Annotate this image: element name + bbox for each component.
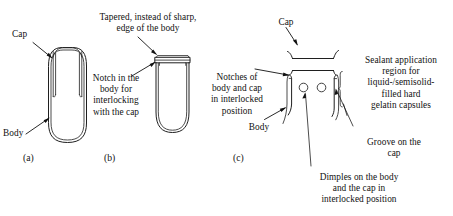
- panel-c-notches-label: Notches of body and cap in interlocked p…: [200, 72, 274, 117]
- panel-a-marker: (a): [23, 152, 34, 163]
- panel-a-body-label: Body: [3, 128, 49, 139]
- panel-b-marker: (b): [104, 152, 115, 163]
- dimple-circle-right: [317, 83, 326, 92]
- panel-c-body-label: Body: [238, 122, 280, 133]
- capsule-figure: Cap Body (a) Tapered, instead of sharp, …: [0, 0, 453, 216]
- panel-c-dimples-label: Dimples on the body and the cap in inter…: [287, 172, 431, 206]
- panel-b-notch-label: Notch in the body for interlocking with …: [82, 73, 150, 118]
- panel-c-groove-label: Groove on the cap: [352, 137, 436, 159]
- panel-c-sealant-label: Sealant application region for liquid-/s…: [350, 55, 452, 111]
- panel-b-tapered-edge-label: Tapered, instead of sharp, edge of the b…: [88, 12, 208, 34]
- dimple-circle-left: [299, 83, 308, 92]
- panel-c-cap-label: Cap: [265, 17, 307, 28]
- panel-a-cap-label: Cap: [12, 29, 52, 40]
- panel-c-marker: (c): [233, 152, 244, 163]
